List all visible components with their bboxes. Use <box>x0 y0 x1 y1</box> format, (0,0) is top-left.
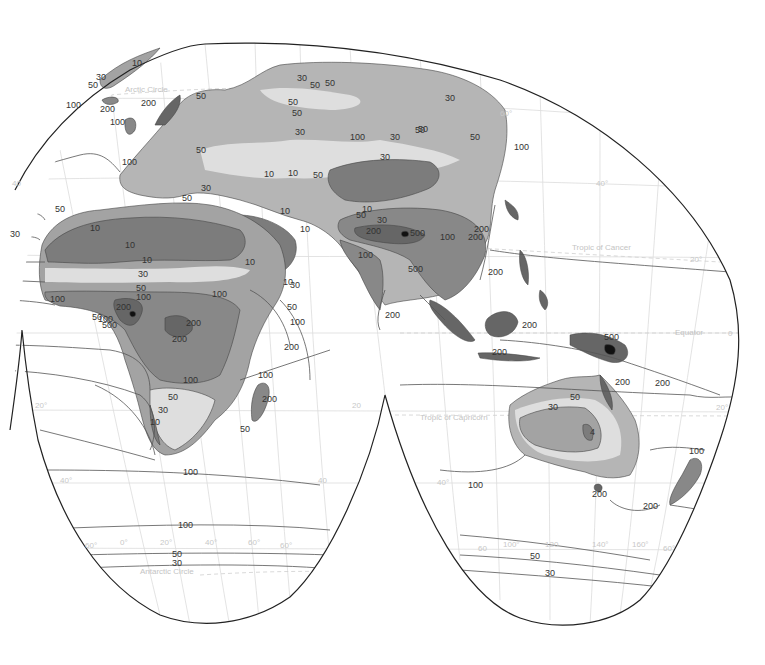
svg-text:40°: 40° <box>437 478 449 487</box>
svg-text:Antarctic Circle: Antarctic Circle <box>140 567 194 576</box>
svg-text:200: 200 <box>141 98 156 108</box>
svg-text:100: 100 <box>110 117 125 127</box>
svg-text:10: 10 <box>142 255 152 265</box>
svg-text:500: 500 <box>410 228 425 238</box>
svg-text:50: 50 <box>182 193 192 203</box>
svg-text:10: 10 <box>132 58 142 68</box>
svg-text:200: 200 <box>488 267 503 277</box>
svg-text:100: 100 <box>50 294 65 304</box>
svg-text:40°: 40° <box>205 538 217 547</box>
svg-text:200: 200 <box>100 104 115 114</box>
svg-text:10: 10 <box>288 168 298 178</box>
svg-text:10: 10 <box>125 240 135 250</box>
svg-text:60°: 60° <box>663 544 675 553</box>
svg-text:100: 100 <box>350 132 365 142</box>
svg-text:20°: 20° <box>35 401 47 410</box>
svg-text:30: 30 <box>10 229 20 239</box>
svg-text:10: 10 <box>90 223 100 233</box>
svg-text:100: 100 <box>66 100 81 110</box>
svg-text:30: 30 <box>545 568 555 578</box>
svg-text:30: 30 <box>295 127 305 137</box>
svg-text:500: 500 <box>408 264 423 274</box>
svg-text:40: 40 <box>318 476 327 485</box>
svg-text:100: 100 <box>183 375 198 385</box>
precipitation-map: Arctic Circle Tropic of Cancer Equator T… <box>0 0 765 665</box>
svg-text:50: 50 <box>288 97 298 107</box>
svg-text:30: 30 <box>377 215 387 225</box>
svg-text:200: 200 <box>186 318 201 328</box>
svg-text:10: 10 <box>300 224 310 234</box>
svg-text:50: 50 <box>310 80 320 90</box>
svg-text:0°: 0° <box>120 538 128 547</box>
svg-text:60°: 60° <box>500 109 512 118</box>
svg-text:30: 30 <box>380 152 390 162</box>
svg-text:200: 200 <box>116 302 131 312</box>
svg-text:200: 200 <box>385 310 400 320</box>
svg-text:200: 200 <box>366 226 381 236</box>
svg-text:50: 50 <box>356 210 366 220</box>
svg-text:50: 50 <box>168 392 178 402</box>
svg-text:40: 40 <box>12 179 21 188</box>
svg-text:100: 100 <box>290 317 305 327</box>
svg-text:Tropic of Capricorn: Tropic of Capricorn <box>420 413 488 422</box>
svg-text:50: 50 <box>530 551 540 561</box>
svg-text:200: 200 <box>643 501 658 511</box>
svg-text:30: 30 <box>158 405 168 415</box>
svg-text:50: 50 <box>570 392 580 402</box>
svg-text:200: 200 <box>655 378 670 388</box>
svg-text:200: 200 <box>284 342 299 352</box>
svg-text:30: 30 <box>390 132 400 142</box>
new-zealand <box>670 458 702 505</box>
svg-text:10: 10 <box>264 169 274 179</box>
svg-text:30: 30 <box>297 73 307 83</box>
svg-text:200: 200 <box>592 489 607 499</box>
svg-text:30: 30 <box>290 280 300 290</box>
svg-text:200: 200 <box>468 232 483 242</box>
svg-text:200: 200 <box>262 394 277 404</box>
svg-text:50: 50 <box>196 91 206 101</box>
svg-text:160°: 160° <box>632 540 649 549</box>
svg-text:100: 100 <box>122 157 137 167</box>
svg-text:60°: 60° <box>280 541 292 550</box>
svg-text:100: 100 <box>258 370 273 380</box>
svg-text:50: 50 <box>240 424 250 434</box>
svg-text:50: 50 <box>418 124 428 134</box>
svg-text:60: 60 <box>478 544 487 553</box>
svg-text:200: 200 <box>172 334 187 344</box>
svg-text:20°: 20° <box>160 538 172 547</box>
svg-text:200: 200 <box>492 347 507 357</box>
svg-text:140°: 140° <box>592 540 609 549</box>
svg-text:30: 30 <box>548 402 558 412</box>
svg-text:Arctic Circle: Arctic Circle <box>125 85 168 94</box>
svg-text:10: 10 <box>245 257 255 267</box>
svg-text:100: 100 <box>689 446 704 456</box>
svg-text:100°: 100° <box>503 540 520 549</box>
svg-text:100: 100 <box>136 292 151 302</box>
svg-text:100: 100 <box>178 520 193 530</box>
new-guinea <box>570 333 628 363</box>
svg-text:20°: 20° <box>716 403 728 412</box>
svg-text:120: 120 <box>545 540 559 549</box>
svg-text:50: 50 <box>292 108 302 118</box>
svg-text:Equator: Equator <box>675 328 703 337</box>
svg-text:50: 50 <box>313 170 323 180</box>
svg-text:500: 500 <box>604 332 619 342</box>
svg-text:100: 100 <box>183 467 198 477</box>
svg-text:50: 50 <box>325 78 335 88</box>
africa <box>39 203 285 455</box>
svg-text:0: 0 <box>728 329 733 338</box>
svg-text:60°: 60° <box>85 541 97 550</box>
svg-text:100: 100 <box>440 232 455 242</box>
svg-text:30: 30 <box>172 558 182 568</box>
svg-text:50: 50 <box>470 132 480 142</box>
svg-text:30: 30 <box>138 269 148 279</box>
svg-text:60°: 60° <box>248 538 260 547</box>
greenland <box>100 48 160 88</box>
svg-text:100: 100 <box>358 250 373 260</box>
svg-text:10: 10 <box>150 417 160 427</box>
svg-text:100: 100 <box>468 480 483 490</box>
svg-text:200: 200 <box>615 377 630 387</box>
svg-text:Tropic of Cancer: Tropic of Cancer <box>572 243 631 252</box>
svg-text:4: 4 <box>590 427 595 437</box>
svg-text:20°: 20° <box>690 255 702 264</box>
